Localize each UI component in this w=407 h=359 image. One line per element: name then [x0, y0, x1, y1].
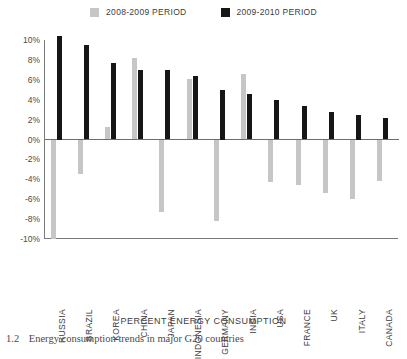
bar-group — [371, 40, 398, 239]
bar-brazil-light — [78, 140, 83, 175]
legend-label-2009-2010: 2009-2010 PERIOD — [237, 7, 317, 17]
bar-russia-dark — [57, 36, 62, 139]
bar-korea-light — [105, 127, 110, 140]
bar-usa-light — [268, 140, 273, 183]
bar-canada-light — [377, 140, 382, 182]
bar-indonesia-light — [187, 79, 192, 140]
bar-group — [344, 40, 371, 239]
y-tick-label: -6% — [0, 194, 40, 204]
y-tick-label: 4% — [0, 95, 40, 105]
figure-caption: 1.2 Energy consumption trends in major G… — [6, 333, 407, 344]
bar-group — [316, 40, 343, 239]
bar-indonesia-dark — [193, 76, 198, 140]
bar-usa-dark — [274, 100, 279, 140]
bar-group — [44, 40, 71, 239]
bar-japan-dark — [165, 70, 170, 140]
bar-series-container — [44, 40, 398, 239]
bar-group — [98, 40, 125, 239]
y-tick-label: -4% — [0, 174, 40, 184]
bar-france-dark — [302, 106, 307, 140]
x-axis-title: PERCENT ENERGY CONSUMPTION — [0, 316, 407, 326]
bar-group — [71, 40, 98, 239]
bar-india-light — [241, 74, 246, 140]
bar-uk-light — [323, 140, 328, 194]
bar-brazil-dark — [84, 45, 89, 140]
y-tick-label: 6% — [0, 75, 40, 85]
legend-entry-2009-2010: 2009-2010 PERIOD — [221, 7, 317, 17]
figure-caption-text: Energy consumption trends in major G20 c… — [29, 333, 244, 344]
y-tick-label: 2% — [0, 115, 40, 125]
figure-caption-number: 1.2 — [6, 333, 19, 344]
bar-korea-dark — [111, 63, 116, 140]
y-tick-label: -2% — [0, 154, 40, 164]
bar-canada-dark — [383, 118, 388, 140]
bar-japan-light — [159, 140, 164, 213]
bar-group — [262, 40, 289, 239]
bar-india-dark — [247, 94, 252, 140]
bar-germany-dark — [220, 90, 225, 140]
y-axis: 10%8%6%4%2%0%-2%-4%-6%-8%-10% — [0, 40, 40, 239]
bar-group — [207, 40, 234, 239]
bar-group — [126, 40, 153, 239]
legend-label-2008-2009: 2008-2009 PERIOD — [106, 7, 186, 17]
bar-italy-light — [350, 140, 355, 200]
x-axis-category-labels: RUSSIABRAZILKOREACHINAJAPANINDONESIAGERM… — [44, 243, 398, 311]
y-tick-label: 10% — [0, 35, 40, 45]
bar-china-light — [132, 58, 137, 140]
bar-group — [235, 40, 262, 239]
y-tick-label: -10% — [0, 234, 40, 244]
bar-italy-dark — [356, 115, 361, 140]
y-tick-label: 8% — [0, 55, 40, 65]
bar-group — [289, 40, 316, 239]
bar-uk-dark — [329, 112, 334, 140]
y-tick-label: 0% — [0, 135, 40, 145]
chart-legend: 2008-2009 PERIOD 2009-2010 PERIOD — [0, 4, 407, 20]
legend-swatch-light — [90, 8, 99, 17]
bar-france-light — [296, 140, 301, 186]
bar-germany-light — [214, 140, 219, 222]
bar-russia-light — [51, 140, 56, 240]
bar-china-dark — [138, 70, 143, 140]
legend-entry-2008-2009: 2008-2009 PERIOD — [90, 7, 186, 17]
bar-group — [153, 40, 180, 239]
legend-swatch-dark — [221, 8, 230, 17]
y-tick-label: -8% — [0, 214, 40, 224]
bar-group — [180, 40, 207, 239]
